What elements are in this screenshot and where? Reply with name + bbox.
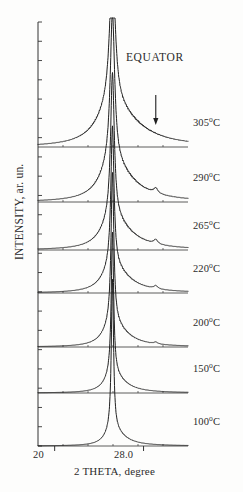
temperature-value: 150 [193, 363, 209, 374]
curves-group [38, 18, 188, 446]
celsius-unit: C [213, 363, 220, 374]
x-axis-label: 2 THETA, degree [74, 466, 155, 477]
x-tick-label-20: 20 [33, 450, 44, 461]
temperature-value: 290 [193, 172, 209, 183]
temperature-value: 100 [193, 416, 209, 427]
temperature-label-200: 200oC [193, 318, 220, 329]
curve-265 [38, 73, 188, 249]
curve-100 [38, 279, 188, 445]
arrow-head [153, 118, 158, 125]
temperature-value: 265 [193, 220, 209, 231]
temperature-value: 220 [193, 263, 209, 274]
celsius-unit: C [213, 220, 220, 231]
temperature-label-150: 150oC [193, 364, 220, 375]
temperature-label-305: 305oC [193, 118, 220, 129]
x-tick-label-28: 28.0 [114, 450, 133, 461]
y-axis-label: INTENSITY, ar. un. [14, 148, 26, 276]
celsius-unit: C [213, 317, 220, 328]
celsius-unit: C [213, 172, 220, 183]
down-arrow-icon [153, 95, 158, 125]
temperature-label-100: 100oC [193, 417, 220, 428]
celsius-unit: C [213, 263, 220, 274]
celsius-unit: C [213, 117, 220, 128]
temperature-value: 200 [193, 317, 209, 328]
equator-annotation: EQUATOR [126, 52, 184, 64]
temperature-label-265: 265oC [193, 221, 220, 232]
xrd-figure: INTENSITY, ar. un. 2 THETA, degree EQUAT… [0, 0, 243, 492]
temperature-value: 305 [193, 117, 209, 128]
axis-group [38, 22, 144, 451]
temperature-label-290: 290oC [193, 173, 220, 184]
temperature-label-220: 220oC [193, 264, 220, 275]
celsius-unit: C [213, 416, 220, 427]
